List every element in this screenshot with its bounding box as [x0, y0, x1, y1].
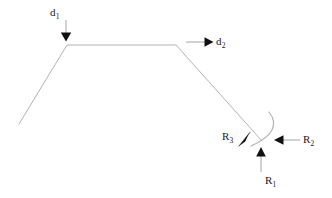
diagram-canvas: [0, 0, 332, 198]
reaction-arrow-r2: [274, 135, 300, 144]
label-r1: R1: [265, 175, 277, 189]
label-d1: d1: [50, 7, 60, 21]
reaction-arrow-r1: [256, 147, 266, 172]
free-body-diagram: d1 d2 R1 R2 R3: [0, 0, 332, 198]
label-d2-sub: 2: [222, 41, 226, 50]
label-r3: R3: [222, 131, 234, 145]
label-d1-sub: 1: [56, 12, 60, 21]
label-r2-sub: 2: [311, 139, 315, 148]
load-arrow-d2: [186, 37, 214, 47]
label-r1-sub: 1: [273, 180, 277, 189]
load-arrow-d1: [61, 20, 71, 42]
label-r1-base: R: [265, 174, 273, 186]
label-r3-base: R: [222, 130, 230, 142]
label-r2: R2: [303, 134, 315, 148]
reaction-arrow-r3: [239, 132, 251, 147]
label-r2-base: R: [303, 133, 311, 145]
label-d2: d2: [216, 36, 226, 50]
label-r3-sub: 3: [230, 136, 234, 145]
beam-profile-outline: [19, 45, 262, 141]
